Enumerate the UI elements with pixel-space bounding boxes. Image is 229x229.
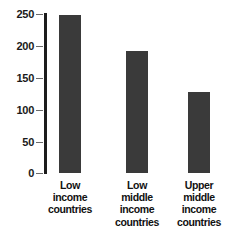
bar-chart: 250 200 150 100 50 0 Low income countrie…: [0, 0, 229, 229]
y-axis-tick-150: [36, 78, 43, 79]
y-axis-tick-50: [36, 142, 43, 143]
x-label-line: Upper: [159, 179, 229, 191]
y-axis-tick-0: [36, 173, 43, 174]
y-axis-tick-200: [36, 46, 43, 47]
y-axis-tick-100: [36, 110, 43, 111]
y-axis-label-200: 200: [0, 41, 34, 52]
y-axis-label-0: 0: [0, 168, 34, 179]
x-label-line: countries: [159, 216, 229, 228]
y-axis-line: [44, 13, 47, 174]
y-axis-tick-250: [36, 14, 43, 15]
bar-low-middle-income-countries: [126, 51, 148, 173]
bar-low-income-countries: [59, 15, 81, 173]
y-axis-label-100: 100: [0, 105, 34, 116]
y-axis-label-50: 50: [0, 137, 34, 148]
plot-area: 250 200 150 100 50 0 Low income countrie…: [0, 0, 229, 229]
y-axis-label-150: 150: [0, 73, 34, 84]
x-label-line: middle: [159, 191, 229, 203]
bar-upper-middle-income-countries: [188, 92, 210, 173]
x-axis-label-upper-middle-income-countries: Upper middle income countries: [159, 179, 229, 228]
x-label-line: income: [159, 203, 229, 215]
y-axis-label-250: 250: [0, 9, 34, 20]
